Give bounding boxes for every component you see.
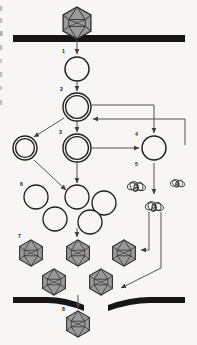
vesicle-genome-center-inner (66, 137, 89, 160)
step-label-5: 5 (135, 161, 138, 167)
top-membrane (13, 35, 185, 42)
step-label-4: 4 (135, 131, 138, 137)
step-label-8: 8 (62, 306, 65, 312)
step-label-7: 7 (18, 233, 21, 239)
step-label-3: 3 (59, 129, 62, 135)
vesicle-endosome (65, 57, 89, 81)
step-label-2: 2 (60, 86, 63, 92)
vesicle-pool-1 (24, 185, 48, 209)
vesicle-pool-4 (43, 207, 67, 231)
step-label-1: 1 (62, 48, 65, 54)
figure-canvas: 1 2 3 4 5 6 7 8 (0, 0, 197, 345)
vesicle-genome-left-inner (16, 139, 35, 158)
vesicle-pool-2 (65, 185, 89, 209)
vesicle-transcript-right (142, 136, 166, 160)
vesicle-pool-5 (78, 210, 102, 234)
step-label-6: 6 (20, 181, 23, 187)
replication-cycle-diagram: 1 2 3 4 5 6 7 8 (0, 0, 197, 345)
vesicle-uncoating-inner (66, 96, 89, 119)
